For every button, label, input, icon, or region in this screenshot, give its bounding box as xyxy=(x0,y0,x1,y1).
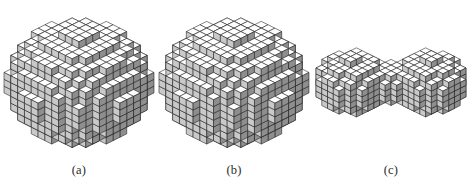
voxel-render-a xyxy=(0,0,158,162)
voxel-render-c xyxy=(312,0,470,162)
figure-panel-c: (c) xyxy=(312,0,470,187)
panel-caption-b: (b) xyxy=(155,163,313,177)
voxel-figure: (a) (b) (c) xyxy=(0,0,475,187)
figure-panel-a: (a) xyxy=(0,0,158,187)
panel-caption-a: (a) xyxy=(0,163,158,177)
voxel-render-b xyxy=(155,0,313,162)
panel-caption-c: (c) xyxy=(312,163,470,177)
figure-panel-b: (b) xyxy=(155,0,313,187)
